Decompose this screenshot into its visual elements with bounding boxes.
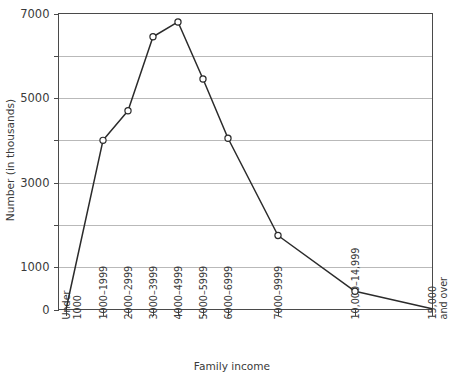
x-axis-tick-label: 15,000 [427, 286, 438, 320]
x-axis-tick-label: 5000–5999 [198, 266, 209, 320]
x-axis-title: Family income [194, 360, 270, 372]
x-axis-tick-label: 7000–9999 [273, 266, 284, 320]
y-axis-tick-label: 1000 [20, 260, 49, 274]
data-point-marker [125, 108, 131, 114]
x-axis-tick-label: 3000–3999 [148, 266, 159, 320]
x-axis-tick-label: 1000–1999 [98, 266, 109, 320]
data-point-marker [175, 19, 181, 25]
x-axis-tick-label: 4000–4999 [173, 266, 184, 320]
chart-canvas: 01000300050007000 Under10001000–19992000… [0, 0, 451, 379]
y-axis-tick-label: 5000 [20, 91, 49, 105]
data-point-marker [225, 135, 231, 141]
line-chart: 01000300050007000 Under10001000–19992000… [0, 0, 451, 379]
data-point-marker [275, 232, 281, 238]
y-axis-tick-label: 0 [42, 303, 49, 317]
y-axis-tick-label: 7000 [20, 7, 49, 21]
y-axis-tick-label: 3000 [20, 176, 49, 190]
x-axis-tick-label: 10,000–14,999 [350, 248, 361, 320]
y-axis-title: Number (in thousands) [4, 99, 16, 221]
x-axis-tick-label: 2000–2999 [123, 266, 134, 320]
x-axis-tick-label: 6000–6999 [223, 266, 234, 320]
data-point-marker [150, 34, 156, 40]
data-point-marker [200, 76, 206, 82]
data-point-marker [100, 137, 106, 143]
data-point-marker [352, 288, 358, 294]
x-axis-tick-label: and over [438, 277, 449, 320]
x-axis-tick-label: 1000 [72, 295, 83, 319]
